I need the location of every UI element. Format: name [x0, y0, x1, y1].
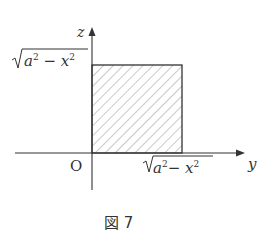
y-tick-label: a2− x2: [153, 159, 199, 177]
exponent: 2: [33, 52, 39, 62]
z-axis-arrow-icon: [89, 27, 96, 36]
origin-label: O: [70, 157, 82, 175]
minus-sign: −: [43, 52, 56, 70]
minus-sign: −: [168, 159, 181, 177]
z-axis-label: z: [77, 24, 84, 40]
y-axis-label: y: [248, 155, 256, 173]
var-a: a: [24, 52, 33, 70]
y-axis-arrow-icon: [236, 150, 245, 157]
exponent: 2: [194, 159, 200, 169]
diagram-canvas: [0, 0, 266, 242]
figure-caption: 図 7: [104, 211, 133, 232]
z-tick-label: a2 − x2: [24, 52, 75, 70]
var-a: a: [153, 159, 162, 177]
hatched-region: [92, 65, 182, 153]
var-x: x: [185, 159, 193, 177]
exponent: 2: [69, 52, 75, 62]
